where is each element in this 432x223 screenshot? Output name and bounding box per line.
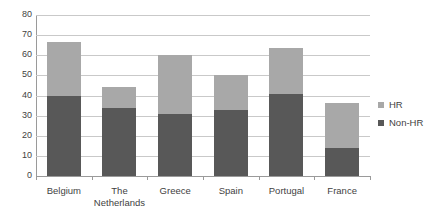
plot-area [36, 15, 370, 176]
y-axis-tick-label: 80 [6, 10, 32, 19]
x-axis-label: The Netherlands [92, 185, 148, 208]
x-axis-tick-mark [147, 176, 148, 180]
x-axis-label: Portugal [259, 185, 315, 197]
bar-segment-hr[interactable] [47, 42, 81, 95]
bar-segment-hr[interactable] [325, 103, 359, 148]
y-axis-tick-label: 60 [6, 50, 32, 59]
x-axis-label: Spain [203, 185, 259, 197]
bar-segment-hr[interactable] [102, 87, 136, 107]
x-axis: BelgiumThe NetherlandsGreeceSpainPortuga… [36, 176, 370, 223]
legend-item[interactable]: Non-HR [378, 114, 432, 132]
stacked-bar[interactable] [325, 103, 359, 176]
x-axis-tick-mark [92, 176, 93, 180]
bar-segment-non-hr[interactable] [47, 96, 81, 177]
y-axis-tick-label: 40 [6, 91, 32, 100]
x-axis-tick-mark [314, 176, 315, 180]
bar-slot [147, 15, 203, 176]
y-axis-tick-label: 70 [6, 30, 32, 39]
legend-swatch-icon [378, 120, 384, 126]
stacked-bar[interactable] [158, 55, 192, 176]
legend-label: Non-HR [389, 118, 423, 128]
bar-slot [314, 15, 370, 176]
stacked-bar[interactable] [47, 42, 81, 176]
bar-slot [92, 15, 148, 176]
x-axis-tick-mark [36, 176, 37, 180]
bar-segment-hr[interactable] [158, 55, 192, 113]
bar-segment-non-hr[interactable] [102, 108, 136, 176]
bar-segment-non-hr[interactable] [214, 110, 248, 176]
bar-slot [36, 15, 92, 176]
legend-item[interactable]: HR [378, 96, 432, 114]
bar-segment-hr[interactable] [214, 75, 248, 109]
y-axis-tick-label: 0 [6, 171, 32, 180]
x-axis-label: Belgium [36, 185, 92, 197]
y-axis-tick-labels: 80706050403020100 [0, 15, 32, 176]
bar-slot [203, 15, 259, 176]
stacked-bar[interactable] [102, 87, 136, 176]
bar-segment-non-hr[interactable] [269, 94, 303, 177]
chart-legend: HRNon-HR [378, 96, 432, 132]
legend-swatch-icon [378, 102, 384, 108]
y-axis-tick-label: 30 [6, 111, 32, 120]
x-axis-tick-mark [259, 176, 260, 180]
bar-segment-non-hr[interactable] [325, 148, 359, 176]
bar-segment-non-hr[interactable] [158, 114, 192, 176]
bar-segment-hr[interactable] [269, 48, 303, 93]
x-axis-tick-mark [370, 176, 371, 180]
stacked-bar-chart: 80706050403020100 BelgiumThe Netherlands… [0, 0, 432, 223]
stacked-bar[interactable] [269, 48, 303, 176]
y-axis-tick-label: 50 [6, 70, 32, 79]
y-axis-tick-label: 20 [6, 131, 32, 140]
legend-label: HR [389, 100, 403, 110]
stacked-bar[interactable] [214, 75, 248, 176]
bar-slot [259, 15, 315, 176]
x-axis-tick-mark [203, 176, 204, 180]
x-axis-label: France [314, 185, 370, 197]
y-axis-tick-label: 10 [6, 151, 32, 160]
x-axis-label: Greece [147, 185, 203, 197]
